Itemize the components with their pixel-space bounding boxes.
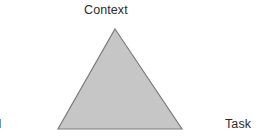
vertex-label-tool: Tool	[0, 117, 1, 131]
vertex-label-task: Task	[225, 117, 251, 131]
triangle-shape	[58, 29, 182, 129]
triangle-diagram-canvas: Context Task Tool	[0, 0, 256, 139]
triangle-shape-svg	[0, 0, 256, 139]
vertex-label-context: Context	[84, 3, 128, 17]
